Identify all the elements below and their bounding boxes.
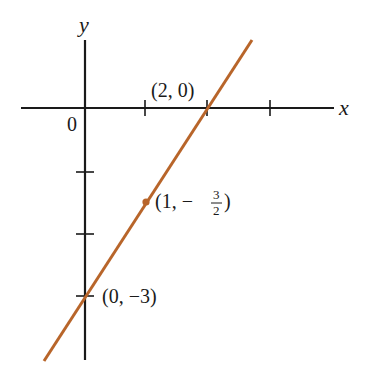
graph-svg: y x 0 (2, 0) (1, − 3 2 ) (0, −3) [0, 0, 371, 376]
y-axis-label: y [77, 12, 89, 37]
x-axis-label: x [338, 95, 349, 120]
point-label-2-0: (2, 0) [151, 79, 194, 102]
point-label-prefix: (1, − [155, 190, 193, 213]
origin-label: 0 [67, 113, 77, 135]
point-label-1-neg3half: (1, − [155, 190, 193, 213]
line-graph-figure: y x 0 (2, 0) (1, − 3 2 ) (0, −3) [0, 0, 371, 376]
fraction-denominator: 2 [213, 203, 220, 218]
point-label-suffix: ) [224, 190, 231, 213]
fraction-numerator: 3 [213, 187, 220, 202]
point-marker-1-neg3half [142, 198, 149, 205]
point-label-0-neg3: (0, −3) [102, 285, 157, 308]
